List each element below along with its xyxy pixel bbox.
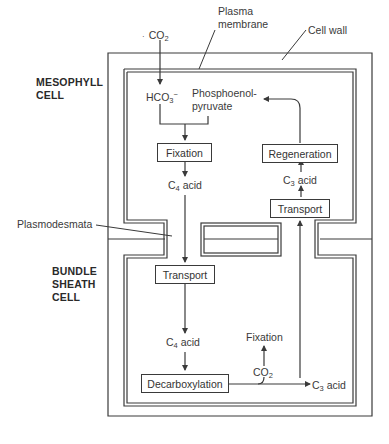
- decarboxylation-box: Decarboxylation: [141, 374, 229, 393]
- mesophyll-c3-acid-label: C3 acid: [283, 174, 317, 186]
- plasma-membrane-label: Plasma membrane: [218, 5, 268, 31]
- c4-text: C: [168, 179, 176, 191]
- bundle-sheath-label-line2: SHEATH: [52, 278, 97, 291]
- c4-acid-text: acid: [178, 336, 200, 348]
- bundle-sheath-cell-label: BUNDLE SHEATH CELL: [52, 265, 97, 304]
- bundle-sheath-c3-acid-label: C3 acid: [312, 379, 346, 391]
- pep-label: Phosphoenol- pyruvate: [192, 87, 257, 112]
- bundle-sheath-label-line3: CELL: [52, 291, 97, 304]
- bundle-sheath-c4-acid-label: C4 acid: [166, 336, 200, 348]
- mesophyll-cell-label: MESOPHYLL CELL: [36, 76, 103, 102]
- co2-text: CO: [253, 366, 269, 378]
- c4-acid-text: acid: [180, 179, 202, 191]
- co2-input-label: ·CO2: [142, 29, 169, 43]
- fixation-box: Fixation: [157, 143, 212, 162]
- co2-text: CO: [149, 29, 165, 41]
- c3-text: C: [283, 174, 291, 186]
- c3-acid-text: acid: [324, 379, 346, 391]
- mesophyll-transport-box: Transport: [270, 199, 330, 218]
- plasma-membrane-line2: membrane: [218, 18, 268, 31]
- mesophyll-label-line1: MESOPHYLL: [36, 76, 103, 89]
- released-co2-label: CO2: [253, 366, 273, 378]
- bundle-sheath-fixation-label: Fixation: [246, 331, 283, 343]
- hco3-text: HCO: [146, 91, 169, 103]
- bicarbonate-label: HCO3−: [146, 91, 178, 103]
- cell-wall-label: Cell wall: [308, 24, 347, 36]
- c3-text: C: [312, 379, 320, 391]
- c3-acid-text: acid: [295, 174, 317, 186]
- mesophyll-c4-acid-label: C4 acid: [168, 179, 202, 191]
- plasma-membrane-line1: Plasma: [218, 5, 268, 18]
- bundle-sheath-label-line1: BUNDLE: [52, 265, 97, 278]
- regeneration-box: Regeneration: [262, 144, 338, 163]
- bundle-sheath-transport-box: Transport: [155, 265, 215, 284]
- pep-line2: pyruvate: [192, 100, 257, 113]
- c4-text: C: [166, 336, 174, 348]
- co2-subscript: 2: [269, 371, 273, 380]
- plasmodesmata-label: Plasmodesmata: [17, 218, 92, 230]
- hco3-superscript: −: [174, 90, 178, 99]
- mesophyll-label-line2: CELL: [36, 89, 103, 102]
- pep-line1: Phosphoenol-: [192, 87, 257, 100]
- co2-subscript: 2: [164, 34, 168, 43]
